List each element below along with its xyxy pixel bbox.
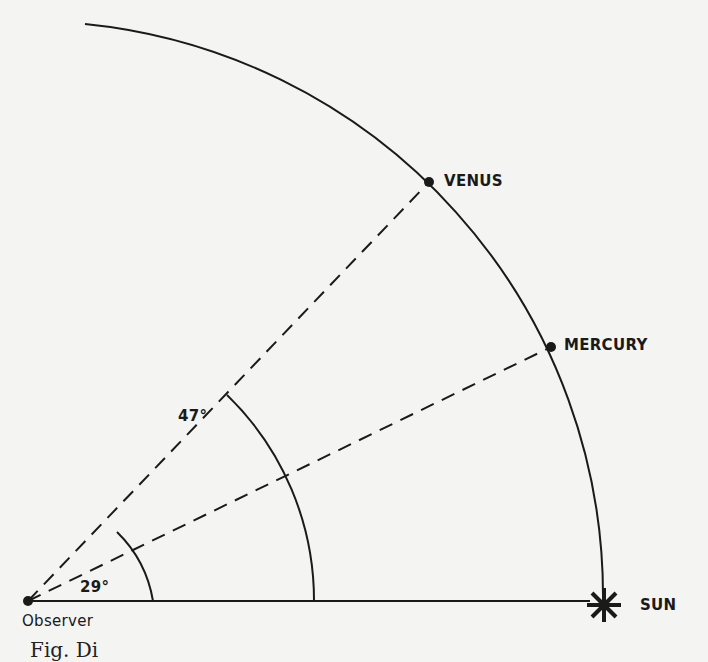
mercury-sight-line [28,347,551,601]
observer-label: Observer [22,612,93,630]
orbit-arc [85,24,603,601]
figure-caption: Fig. Di [30,638,98,662]
venus-label: VENUS [444,172,503,190]
sun-label: SUN [640,596,676,614]
sun-star-icon [587,588,621,622]
venus-point [424,177,434,187]
mercury-label: MERCURY [564,336,648,354]
mercury-point [546,342,556,352]
observer-point [23,596,33,606]
venus-sight-line [28,182,429,601]
angle-arc-29 [117,532,153,601]
angle-label-47: 47° [178,407,207,425]
angle-label-29: 29° [80,578,109,596]
